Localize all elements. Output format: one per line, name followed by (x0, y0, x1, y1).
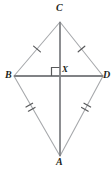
right-angle-marker-icon (52, 68, 60, 77)
vertex-label-D: D (103, 70, 110, 80)
vertex-label-C: C (56, 3, 63, 13)
tick-mark-CD (78, 46, 85, 52)
vertex-label-X: X (62, 65, 68, 74)
edge-BA (14, 76, 60, 156)
edge-DA (60, 76, 103, 156)
vertex-label-A: A (56, 157, 63, 167)
kite-diagram-svg (0, 0, 112, 176)
geometry-figure-kite: C B D A X (0, 0, 112, 176)
vertex-label-B: B (5, 70, 12, 80)
